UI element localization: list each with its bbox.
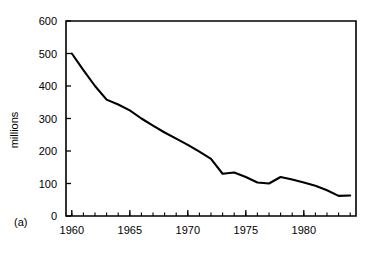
y-tick-label-200: 200 <box>39 145 57 157</box>
x-tick-label-1965: 1965 <box>118 224 142 236</box>
line-chart: 0100200300400500600 19601965197019751980… <box>0 0 375 259</box>
y-tick-label-100: 100 <box>39 178 57 190</box>
plot-frame <box>66 21 356 216</box>
y-axis-tick-labels: 0100200300400500600 <box>39 15 57 222</box>
y-tick-label-500: 500 <box>39 48 57 60</box>
data-series-group <box>72 54 350 196</box>
x-tick-label-1975: 1975 <box>234 224 258 236</box>
y-tick-label-400: 400 <box>39 80 57 92</box>
panel-label: (a) <box>14 216 27 228</box>
x-tick-label-1970: 1970 <box>176 224 200 236</box>
y-axis-title: millions <box>8 111 20 148</box>
figure-panel: 0100200300400500600 19601965197019751980… <box>0 0 375 259</box>
x-axis-tick-labels: 19601965197019751980 <box>60 224 316 236</box>
series-line-millions <box>72 54 350 196</box>
y-tick-label-600: 600 <box>39 15 57 27</box>
y-tick-label-0: 0 <box>51 210 57 222</box>
x-tick-label-1980: 1980 <box>292 224 316 236</box>
x-tick-label-1960: 1960 <box>60 224 84 236</box>
y-tick-label-300: 300 <box>39 113 57 125</box>
